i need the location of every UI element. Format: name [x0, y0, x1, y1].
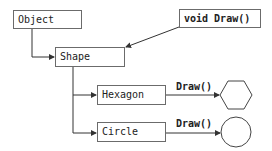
circle-draw-label: Draw()	[176, 118, 212, 130]
shape-node-label: Shape	[60, 51, 90, 62]
hexagon-icon	[220, 81, 252, 109]
method-node: void Draw()	[179, 9, 261, 28]
method-node-label: void Draw()	[184, 13, 250, 24]
hexagon-node: Hexagon	[97, 85, 166, 105]
hexagon-node-label: Hexagon	[102, 89, 144, 100]
circle-icon	[221, 117, 251, 147]
object-to-shape-connector	[32, 28, 54, 57]
hexagon-draw-label: Draw()	[176, 81, 212, 93]
object-node-label: Object	[18, 14, 54, 25]
circle-node-label: Circle	[102, 126, 138, 137]
shape-node: Shape	[55, 47, 125, 67]
method-to-shape-connector	[126, 27, 179, 47]
circle-node: Circle	[97, 122, 166, 142]
object-node: Object	[13, 10, 82, 29]
